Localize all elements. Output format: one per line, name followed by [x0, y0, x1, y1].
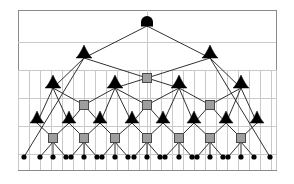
leaf-node	[207, 154, 212, 159]
level-3-square-node	[143, 101, 152, 110]
leaf-node	[189, 154, 194, 159]
tree-diagram-figure	[0, 0, 294, 184]
level-4-square-node	[111, 134, 120, 143]
leaf-node	[144, 154, 149, 159]
level-2-square-node	[143, 74, 152, 83]
leaf-node	[225, 154, 230, 159]
leaf-node	[94, 154, 99, 159]
level-4-square-node	[237, 134, 246, 143]
leaf-node	[251, 154, 256, 159]
level-4-square-node	[175, 134, 184, 143]
level-3-square-node	[206, 101, 215, 110]
leaf-node	[220, 154, 225, 159]
level-4-square-node	[206, 134, 215, 143]
leaf-node	[162, 154, 167, 159]
leaf-node	[81, 154, 86, 159]
leaf-node	[50, 154, 55, 159]
leaf-node	[99, 154, 104, 159]
leaf-node	[125, 154, 130, 159]
leaf-node	[176, 154, 181, 159]
level-3-square-node	[80, 101, 89, 110]
leaf-node	[238, 154, 243, 159]
level-4-square-node	[80, 134, 89, 143]
level-4-square-node	[143, 134, 152, 143]
leaf-node	[112, 154, 117, 159]
leaf-node	[68, 154, 73, 159]
leaf-node	[157, 154, 162, 159]
leaf-node	[267, 154, 272, 159]
leaf-node	[63, 154, 68, 159]
level-4-square-node	[49, 134, 58, 143]
leaf-node	[194, 154, 199, 159]
leaf-node	[37, 154, 42, 159]
leaf-node	[131, 154, 136, 159]
tree-diagram-canvas	[0, 0, 294, 184]
leaf-node	[21, 154, 26, 159]
